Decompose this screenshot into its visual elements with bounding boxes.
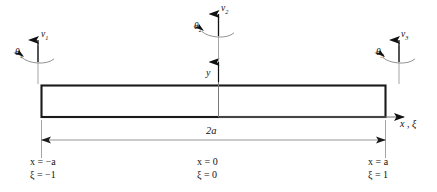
beam-body bbox=[42, 86, 386, 118]
coordinate-label-center-xi: ξ = 0 bbox=[197, 170, 217, 181]
node-1-rotation-label: θ1 bbox=[15, 48, 23, 59]
dimension-label-2a: 2a bbox=[206, 125, 217, 136]
node-2-rotation-label: θ2 bbox=[194, 22, 202, 33]
figure-canvas: v1 θ1 v2 θ2 v3 θ3 y x , ξ 2a x = −a ξ = … bbox=[0, 0, 437, 192]
coordinate-label-right-xi: ξ = 1 bbox=[368, 170, 388, 181]
node-2-displacement-label: v2 bbox=[221, 4, 228, 15]
node-1-displacement-label: v1 bbox=[41, 30, 48, 41]
coordinate-label-left-xi: ξ = −1 bbox=[30, 170, 56, 181]
x-axis-label: x , ξ bbox=[400, 119, 416, 130]
y-axis-label: y bbox=[206, 68, 210, 79]
node-3-rotation-label: θ3 bbox=[376, 48, 384, 59]
node-3-displacement-label: v3 bbox=[401, 30, 408, 41]
coordinate-label-left-x: x = −a bbox=[30, 157, 56, 168]
coordinate-label-center-x: x = 0 bbox=[197, 157, 218, 168]
coordinate-label-right-x: x = a bbox=[368, 157, 388, 168]
